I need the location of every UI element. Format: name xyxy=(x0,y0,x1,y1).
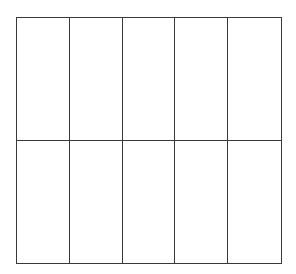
grid-cell-r2-c2 xyxy=(70,141,123,264)
empty-grid-table xyxy=(16,17,282,264)
grid-cell-r2-c4 xyxy=(175,141,228,264)
grid-cell-r2-c3 xyxy=(123,141,176,264)
grid-cell-r1-c5 xyxy=(228,18,281,141)
grid-cell-r1-c2 xyxy=(70,18,123,141)
grid-cell-r1-c3 xyxy=(123,18,176,141)
grid-cell-r1-c4 xyxy=(175,18,228,141)
grid-cell-r1-c1 xyxy=(17,18,70,141)
grid-cell-r2-c1 xyxy=(17,141,70,264)
grid-cell-r2-c5 xyxy=(228,141,281,264)
